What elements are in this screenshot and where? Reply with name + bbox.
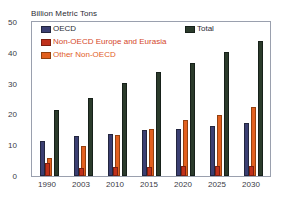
chart-title: Billion Metric Tons (31, 9, 97, 18)
bar-non-oecd-europe-eurasia (113, 167, 118, 176)
bar-oecd (244, 123, 249, 176)
bar-total (190, 63, 195, 176)
bar-non-oecd-europe-eurasia (79, 168, 84, 176)
bar-total (88, 98, 93, 176)
legend-swatch-total-icon (185, 26, 195, 33)
legend-label-oecd: OECD (53, 25, 76, 33)
bar-total (156, 72, 161, 176)
bar-total (54, 110, 59, 176)
x-axis-tick-label: 2020 (174, 180, 192, 189)
y-axis-tick-label: 30 (8, 79, 17, 88)
bar-non-oecd-europe-eurasia (181, 166, 186, 176)
bar-oecd (40, 141, 45, 176)
x-axis-tick-label: 1990 (38, 180, 56, 189)
bar-oecd (210, 126, 215, 176)
legend-label-other-non-oecd: Other Non-OECD (53, 51, 116, 59)
x-axis-tick-label: 2003 (72, 180, 90, 189)
bar-non-oecd-europe-eurasia (45, 163, 50, 176)
legend-swatch-oecd-icon (41, 26, 51, 33)
y-axis: 01020304050 (0, 0, 31, 206)
bar-non-oecd-europe-eurasia (249, 166, 254, 176)
y-axis-tick-label: 20 (8, 110, 17, 119)
legend-item-other-non-oecd[interactable]: Other Non-OECD (41, 51, 116, 59)
x-axis-tick-label: 2015 (140, 180, 158, 189)
bar-oecd (74, 136, 79, 176)
bar-total (122, 83, 127, 176)
legend-item-non-oecd-europe-eurasia[interactable]: Non-OECD Europe and Eurasia (41, 38, 166, 46)
y-axis-tick-label: 0 (13, 172, 17, 181)
y-axis-tick-label: 40 (8, 48, 17, 57)
legend-swatch-non-oecd-europe-eurasia-icon (41, 39, 51, 46)
y-axis-tick-label: 10 (8, 141, 17, 150)
x-axis-tick-label: 2030 (242, 180, 260, 189)
y-axis-tick-label: 50 (8, 18, 17, 27)
bar-total (224, 52, 229, 176)
x-axis-tick-label: 2010 (106, 180, 124, 189)
legend-item-oecd[interactable]: OECD (41, 25, 76, 33)
bar-non-oecd-europe-eurasia (147, 167, 152, 176)
bar-non-oecd-europe-eurasia (215, 166, 220, 176)
legend-item-total[interactable]: Total (185, 25, 214, 33)
bar-total (258, 41, 263, 176)
chart-container: Billion Metric Tons 01020304050 19902003… (0, 0, 281, 206)
legend-swatch-other-non-oecd-icon (41, 52, 51, 59)
bar-oecd (108, 134, 113, 177)
x-axis: 1990200320102015202020252030 (31, 180, 271, 196)
x-axis-tick-label: 2025 (208, 180, 226, 189)
bar-oecd (176, 129, 181, 176)
legend-label-total: Total (197, 25, 214, 33)
bar-oecd (142, 130, 147, 176)
legend-label-non-oecd-europe-eurasia: Non-OECD Europe and Eurasia (53, 38, 166, 46)
